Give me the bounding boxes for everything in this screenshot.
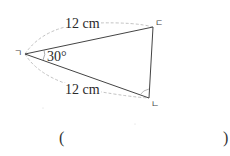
answer-blank[interactable]: ( ) xyxy=(58,128,230,148)
angle-left-label: 30° xyxy=(46,50,68,64)
angle-mark-bottom-right xyxy=(140,89,149,95)
answer-open-paren: ( xyxy=(59,130,64,146)
side-right xyxy=(149,27,153,98)
side-top-length-label: 12 cm xyxy=(64,17,101,31)
answer-close-paren: ) xyxy=(223,130,228,146)
angle-mark-left xyxy=(43,50,45,60)
vertex-label-top-right: ㄷ xyxy=(155,19,163,28)
vertex-label-bottom-right: ㄴ xyxy=(151,100,159,109)
vertex-label-left: ㄱ xyxy=(14,49,22,58)
side-bottom-length-label: 12 cm xyxy=(64,83,101,97)
